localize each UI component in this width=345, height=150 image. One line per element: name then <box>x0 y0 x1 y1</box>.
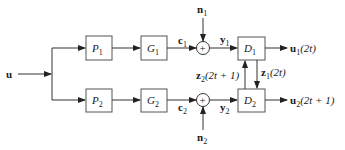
crosslink-z1: z1(2t) <box>261 66 286 81</box>
noise-n1: n1 <box>197 3 207 18</box>
noise-n2: n2 <box>197 131 207 146</box>
sum-node-2-plus: + <box>200 94 206 106</box>
signal-c1: c1 <box>178 34 187 49</box>
signal-c2: c2 <box>178 101 187 116</box>
sum-node-1-plus: + <box>200 42 206 54</box>
crosslink-z2: z2(2t + 1) <box>196 69 240 84</box>
output-u2: u2(2t + 1) <box>290 94 335 109</box>
input-label-u: u <box>6 68 12 80</box>
signal-y2: y2 <box>220 101 230 116</box>
block-diagram: u P1 G1 c1 + n1 y1 D1 u1(2t) P2 G2 c2 + … <box>0 0 345 150</box>
signal-y1: y1 <box>220 33 230 48</box>
output-u1: u1(2t) <box>290 42 316 57</box>
